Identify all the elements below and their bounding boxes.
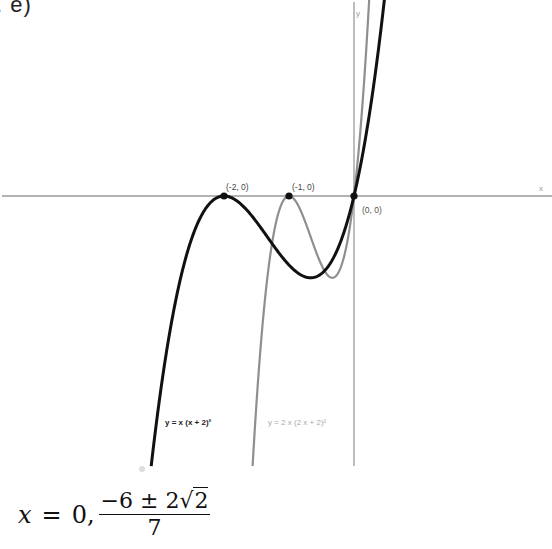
answer-first-root: 0, bbox=[72, 501, 95, 529]
sqrt-icon: √ bbox=[179, 488, 193, 513]
point-minus-2 bbox=[220, 192, 227, 199]
point-minus-1 bbox=[285, 192, 292, 199]
point-label-minus-2: (-2, 0) bbox=[226, 182, 249, 192]
fraction-numerator: −6 ± 2√2 bbox=[99, 488, 211, 515]
function-plot: x y (-2, 0) (-1, 0) (0, 0) y = x (x + 2)… bbox=[0, 0, 552, 549]
answer-equals: = bbox=[42, 501, 62, 529]
numerator-prefix: −6 ± 2 bbox=[101, 488, 180, 513]
answer-equation: x = 0, −6 ± 2√2 7 bbox=[18, 488, 210, 541]
answer-variable: x bbox=[18, 501, 32, 529]
point-label-origin: (0, 0) bbox=[362, 205, 382, 215]
smudge-dot bbox=[139, 466, 145, 472]
legend-grey: y = 2 x (2 x + 2)² bbox=[268, 418, 327, 427]
point-label-minus-1: (-1, 0) bbox=[292, 182, 315, 192]
point-origin bbox=[350, 192, 357, 199]
y-axis-label: y bbox=[356, 9, 360, 18]
curve-grey bbox=[253, 0, 371, 466]
sqrt-argument: 2 bbox=[193, 487, 208, 513]
fraction-denominator: 7 bbox=[148, 515, 162, 541]
x-axis-label: x bbox=[539, 184, 543, 193]
answer-fraction: −6 ± 2√2 7 bbox=[99, 488, 211, 541]
curve-black bbox=[151, 0, 386, 466]
legend-black: y = x (x + 2)² bbox=[165, 418, 212, 427]
